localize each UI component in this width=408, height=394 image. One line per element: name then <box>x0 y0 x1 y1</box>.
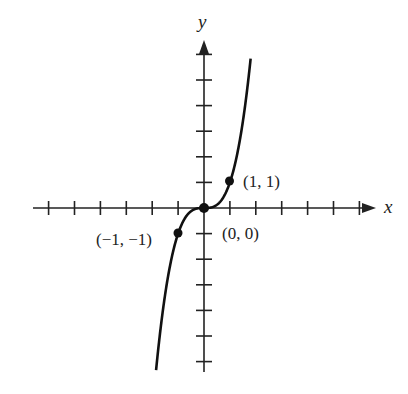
point-origin <box>199 203 209 213</box>
x-axis-label: x <box>383 196 393 217</box>
point-neg-one <box>174 229 183 238</box>
x-axis-arrow-icon <box>362 203 376 213</box>
y-axis-arrow-icon <box>199 40 209 54</box>
y-axis-label: y <box>196 11 207 32</box>
cubic-graph: y x (1, 1) (0, 0) (−1, −1) <box>0 0 408 394</box>
label-point-neg-one: (−1, −1) <box>96 230 152 249</box>
label-point-one: (1, 1) <box>243 172 280 191</box>
point-one <box>225 177 234 186</box>
label-point-origin: (0, 0) <box>222 224 259 243</box>
